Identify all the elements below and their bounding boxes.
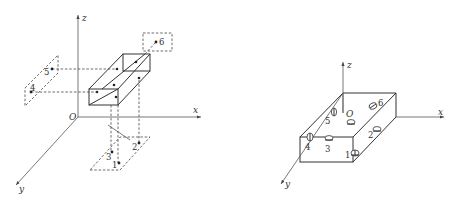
left-point-5-dot (51, 68, 54, 71)
right-pin-center (347, 120, 355, 125)
left-point-1-dot (118, 162, 121, 165)
right-pin-3-label: 3 (325, 144, 330, 154)
right-pin-4-label: 4 (305, 142, 310, 152)
right-z-label: z (346, 60, 352, 70)
left-y-label: y (18, 184, 25, 194)
left-point-2-label: 2 (132, 142, 137, 152)
right-pin-2: 2 (368, 127, 381, 140)
left-point-2-dot (138, 142, 141, 145)
right-pin-6-label: 6 (378, 98, 383, 108)
right-pin-2-label: 2 (368, 130, 373, 140)
left-workpiece-box (89, 54, 150, 105)
left-point-5-label: 5 (44, 67, 49, 77)
left-x-label: x (193, 105, 198, 115)
left-plane-xz-point-6: 6 (143, 33, 172, 54)
right-locating-pins: 6 5 2 4 (305, 98, 383, 160)
left-plane-yz-points-4-5: 5 4 (25, 55, 117, 106)
right-pin-4: 4 (305, 133, 313, 152)
right-y-label: y (284, 179, 291, 189)
left-plane-xy-points-1-2-3: 2 3 1 (90, 80, 150, 170)
right-pin-3: 3 (325, 136, 333, 154)
left-y-axis (16, 117, 78, 185)
left-point-3-label: 3 (106, 152, 111, 162)
left-point-1-label: 1 (112, 160, 117, 170)
left-panel: z x y O (16, 13, 201, 194)
left-point-6-dot (155, 41, 158, 44)
right-pin-1-label: 1 (345, 150, 350, 160)
left-axes: z x y O (16, 13, 201, 194)
left-origin-label: O (69, 112, 77, 122)
right-origin-label: O (346, 109, 354, 119)
six-point-locating-diagram: z x y O (0, 0, 453, 201)
left-point-6-label: 6 (159, 37, 164, 47)
right-axes: z x y O (281, 60, 444, 189)
right-x-label: x (438, 107, 443, 117)
left-point-4-label: 4 (30, 83, 35, 93)
right-pin-5-label: 5 (325, 116, 330, 126)
right-panel: z x y O 6 5 (281, 60, 444, 189)
left-z-label: z (81, 13, 87, 23)
